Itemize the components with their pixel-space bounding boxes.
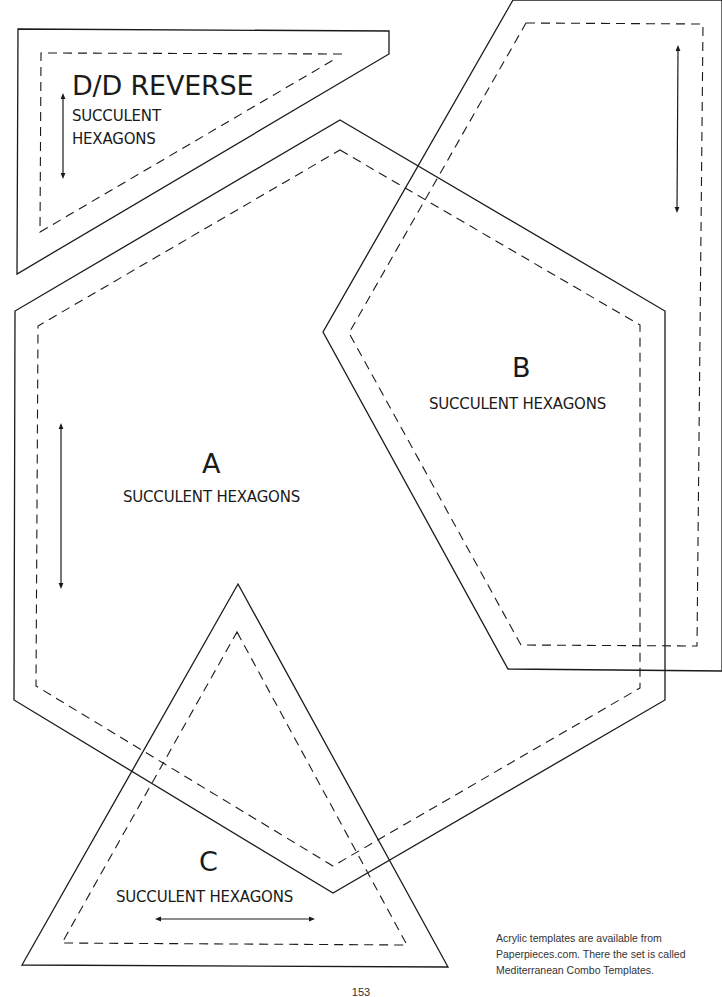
template-b-letter: B: [512, 352, 530, 383]
dd-reverse-subtitle-line1: SUCCULENT: [72, 107, 161, 125]
note-line-1: Acrylic templates are available from: [496, 930, 686, 946]
template-b: [323, 0, 722, 671]
b-cut-line: [323, 0, 722, 671]
template-c-letter: C: [199, 846, 218, 877]
dd-cut-line: [17, 29, 389, 274]
b-seam-line: [349, 23, 703, 646]
note-line-2: Paperpieces.com. There the set is called: [496, 946, 686, 962]
dd-reverse-subtitle-line2: HEXAGONS: [72, 130, 156, 148]
template-a: [14, 120, 665, 893]
note-line-3: Mediterranean Combo Templates.: [496, 962, 686, 978]
a-cut-line: [14, 120, 665, 893]
template-b-subtitle: SUCCULENT HEXAGONS: [429, 395, 606, 413]
availability-note: Acrylic templates are available from Pap…: [496, 930, 686, 978]
template-a-letter: A: [202, 448, 220, 479]
a-seam-line: [36, 150, 640, 866]
template-sheet: [0, 0, 722, 997]
b-grain-arrow: [677, 48, 678, 210]
dd-reverse-title: D/D REVERSE: [72, 70, 253, 101]
template-c-subtitle: SUCCULENT HEXAGONS: [116, 888, 293, 906]
template-c: [22, 584, 448, 967]
c-cut-line: [22, 584, 448, 967]
page-number: 153: [0, 986, 722, 997]
template-a-subtitle: SUCCULENT HEXAGONS: [123, 488, 300, 506]
template-dd-reverse: [17, 29, 389, 274]
